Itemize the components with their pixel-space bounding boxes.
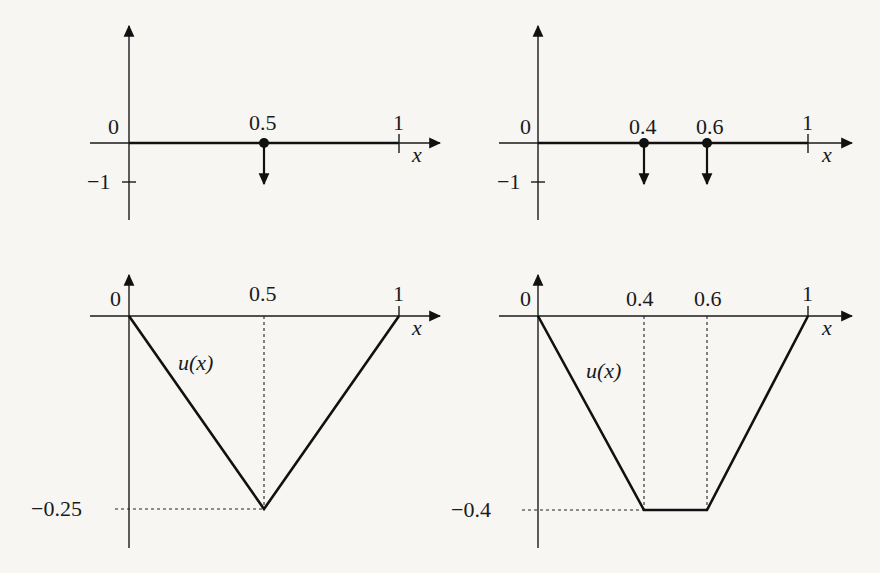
panel-load-double: 0 0.4 0.6 1 x −1: [497, 26, 852, 220]
label-one: 1: [802, 281, 813, 306]
label-load-1: 0.6: [696, 114, 724, 139]
curve-label: u(x): [178, 350, 213, 375]
label-one: 1: [802, 110, 813, 135]
label-neg1: −1: [87, 169, 110, 194]
panel-load-single: 0 0.5 1 x −1: [87, 26, 440, 220]
figure: 0 0.5 1 x −1 0 0.4 0.6 1 x −1 0 0.5 1 x …: [0, 0, 880, 573]
label-load-0: 0.5: [249, 110, 277, 135]
label-b: 0.6: [694, 286, 722, 311]
label-load-0: 0.4: [629, 114, 657, 139]
x-axis-label: x: [821, 142, 832, 167]
label-one: 1: [393, 281, 404, 306]
label-origin: 0: [110, 286, 121, 311]
label-origin: 0: [520, 114, 531, 139]
label-mid: 0.5: [249, 281, 277, 306]
panel-displacement-single: 0 0.5 1 x u(x) −0.25: [31, 275, 440, 548]
x-axis-label: x: [411, 142, 422, 167]
label-one: 1: [393, 110, 404, 135]
panel-displacement-double: 0 0.4 0.6 1 x u(x) −0.4: [451, 275, 852, 548]
label-origin: 0: [520, 286, 531, 311]
label-neg1: −1: [497, 169, 520, 194]
label-origin: 0: [108, 114, 119, 139]
x-axis-label: x: [411, 315, 422, 340]
label-min: −0.25: [31, 496, 82, 521]
diagram-canvas: 0 0.5 1 x −1 0 0.4 0.6 1 x −1 0 0.5 1 x …: [0, 0, 880, 573]
x-axis-label: x: [821, 315, 832, 340]
curve-label: u(x): [586, 358, 621, 383]
label-a: 0.4: [626, 286, 654, 311]
displacement-curve: [538, 316, 808, 510]
label-min: −0.4: [451, 497, 491, 522]
